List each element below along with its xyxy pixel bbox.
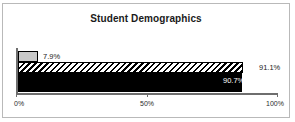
bar-series-1 bbox=[18, 51, 38, 62]
bar-label-series-1: 7.9% bbox=[43, 52, 60, 61]
bar-series-3 bbox=[18, 73, 242, 92]
axis-label-0: 0% bbox=[14, 100, 24, 108]
plot-area: 7.9% 91.1% 90.7% bbox=[16, 46, 278, 93]
chart-title: Student Demographics bbox=[3, 13, 289, 24]
axis-tick-50 bbox=[147, 93, 148, 97]
axis-label-50: 50% bbox=[140, 100, 154, 108]
bar-label-series-3: 90.7% bbox=[223, 76, 244, 85]
bar-label-series-2: 91.1% bbox=[259, 63, 280, 72]
chart-frame: Student Demographics 7.9% 91.1% 90.7% 0%… bbox=[2, 3, 290, 118]
bar-series-2 bbox=[18, 62, 243, 73]
axis-label-100: 100% bbox=[266, 100, 284, 108]
axis-tick-100 bbox=[277, 93, 278, 97]
axis-tick-0 bbox=[16, 93, 17, 97]
